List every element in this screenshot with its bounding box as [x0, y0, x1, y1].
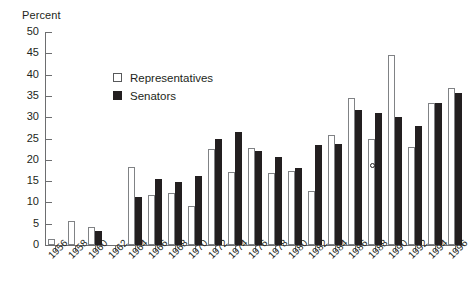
- y-tick-label: 30: [27, 110, 45, 122]
- bar-senators-1990: [395, 117, 402, 245]
- y-axis-title: Percent: [22, 9, 61, 21]
- bar-senators-1984: [335, 144, 342, 245]
- y-tick-label: 20: [27, 153, 45, 165]
- bar-senators-1976: [255, 151, 262, 245]
- y-tick-0: 0: [45, 245, 52, 246]
- bar-representatives-1988: [368, 139, 375, 245]
- bar-senators-1982: [315, 145, 322, 245]
- bar-representatives-1960: [88, 227, 95, 245]
- bar-senators-1970: [195, 176, 202, 245]
- bar-representatives-1978: [268, 173, 275, 245]
- bar-senators-1966: [155, 179, 162, 245]
- bar-representatives-1966: [148, 195, 155, 245]
- filled-square-swatch-icon: [113, 91, 122, 100]
- bar-representatives-1984: [328, 135, 335, 245]
- y-tick-label: 10: [27, 195, 45, 207]
- bar-representatives-1958: [68, 221, 75, 245]
- bar-senators-1994: [435, 103, 442, 245]
- bar-senators-1980: [295, 168, 302, 245]
- y-tick-label: 35: [27, 89, 45, 101]
- bar-senators-1974: [235, 132, 242, 245]
- y-tick-label: 15: [27, 174, 45, 186]
- bar-representatives-1956: [48, 239, 55, 245]
- percent-by-year-bar-chart: Percent 05101520253035404550 19561958196…: [0, 0, 475, 291]
- bar-senators-1968: [175, 182, 182, 245]
- bar-senators-1978: [275, 157, 282, 245]
- legend-item-representatives: Representatives: [113, 71, 213, 84]
- y-tick-mark: [45, 245, 52, 246]
- bar-representatives-1976: [248, 148, 255, 245]
- open-square-swatch-icon: [113, 73, 122, 82]
- bar-representatives-1986: [348, 98, 355, 245]
- legend-label-representatives: Representatives: [130, 72, 213, 84]
- y-tick-label: 50: [27, 25, 45, 37]
- y-tick-label: 45: [27, 46, 45, 58]
- bar-representatives-1970: [188, 206, 195, 245]
- bar-representatives-1990: [388, 55, 395, 245]
- y-tick-label: 40: [27, 68, 45, 80]
- y-tick-label: 0: [33, 238, 45, 250]
- plot-area: [45, 32, 465, 245]
- bar-representatives-1964: [128, 167, 135, 245]
- y-tick-label: 5: [33, 217, 45, 229]
- legend-label-senators: Senators: [130, 90, 176, 102]
- bar-senators-1960: [95, 231, 102, 245]
- legend-item-senators: Senators: [113, 89, 213, 102]
- bar-representatives-1992: [408, 147, 415, 245]
- bar-senators-1992: [415, 126, 422, 245]
- bar-representatives-1994: [428, 103, 435, 245]
- bar-representatives-1968: [168, 193, 175, 245]
- bar-representatives-1980: [288, 171, 295, 245]
- bar-representatives-1982: [308, 191, 315, 245]
- bar-senators-1986: [355, 110, 362, 245]
- bar-senators-1996: [455, 93, 462, 245]
- bar-senators-1972: [215, 139, 222, 246]
- marker-dot-icon: [370, 163, 375, 168]
- bar-representatives-1972: [208, 149, 215, 245]
- y-tick-label: 25: [27, 132, 45, 144]
- chart-legend: Representatives Senators: [113, 71, 213, 107]
- bar-senators-1988: [375, 113, 382, 245]
- bar-senators-1964: [135, 197, 142, 245]
- bar-representatives-1996: [448, 88, 455, 245]
- bar-representatives-1974: [228, 172, 235, 245]
